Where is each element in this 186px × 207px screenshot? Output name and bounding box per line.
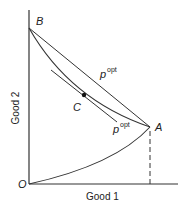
curve-o-to-a bbox=[29, 127, 150, 184]
label-p-opt-upper: p bbox=[99, 68, 106, 80]
edgeworth-diagram: B A C O p opt p opt Good 1 Good 2 bbox=[0, 0, 186, 207]
label-c: C bbox=[73, 101, 81, 113]
label-p-opt-lower-sup: opt bbox=[120, 121, 130, 129]
point-c-dot bbox=[82, 93, 86, 97]
label-b: B bbox=[36, 15, 43, 27]
x-axis-label: Good 1 bbox=[86, 191, 119, 202]
label-p-opt-upper-sup: opt bbox=[107, 66, 117, 74]
budget-line-ba bbox=[29, 28, 150, 127]
label-p-opt-lower: p bbox=[112, 123, 119, 135]
label-a: A bbox=[154, 121, 162, 133]
y-axis-label: Good 2 bbox=[10, 91, 21, 124]
label-origin: O bbox=[18, 178, 27, 190]
